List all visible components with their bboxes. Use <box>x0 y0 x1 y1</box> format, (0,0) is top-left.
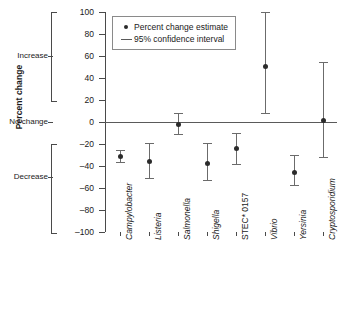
x-tick <box>149 232 150 236</box>
x-axis-label: Cryptosporidium <box>327 178 337 240</box>
percent-change-chart: Percent change IncreaseNo changeDecrease… <box>0 0 347 324</box>
estimate-point <box>321 118 326 123</box>
y-tick-label: 0 <box>60 118 94 126</box>
confidence-interval-cap <box>116 162 125 163</box>
y-tick-label: –20 <box>60 140 94 148</box>
legend: Percent change estimate 95% confidence i… <box>112 16 236 50</box>
confidence-interval-cap <box>203 180 212 181</box>
confidence-interval-cap <box>116 150 125 151</box>
y-zone-label: No change <box>0 117 48 126</box>
estimate-point <box>118 154 123 159</box>
y-tick-label: –60 <box>60 184 94 192</box>
confidence-interval-bar <box>323 62 324 158</box>
x-tick <box>294 232 295 236</box>
y-tick <box>99 232 105 233</box>
legend-dot-icon <box>118 25 134 29</box>
x-tick <box>120 232 121 236</box>
legend-line-icon <box>118 39 134 40</box>
confidence-interval-cap <box>261 12 270 13</box>
y-zone-connector <box>48 122 53 123</box>
y-zone-connector <box>48 177 53 178</box>
confidence-interval-cap <box>232 133 241 134</box>
confidence-interval-cap <box>319 157 328 158</box>
legend-label-ci: 95% confidence interval <box>134 34 224 44</box>
x-axis-label: Campylobacter <box>124 183 134 240</box>
estimate-point <box>147 159 152 164</box>
y-tick-label: 40 <box>60 74 94 82</box>
y-tick-label: 100 <box>60 8 94 16</box>
estimate-point <box>234 146 239 151</box>
y-zone-bracket <box>51 12 57 102</box>
y-tick-label: 60 <box>60 52 94 60</box>
confidence-interval-cap <box>319 62 328 63</box>
y-tick-label: –40 <box>60 162 94 170</box>
y-zone-label: Decrease <box>0 172 48 181</box>
x-axis-label: Listeria <box>153 213 163 240</box>
estimate-point <box>263 64 268 69</box>
x-tick <box>178 232 179 236</box>
x-tick <box>236 232 237 236</box>
y-zone-label: Increase <box>0 51 48 60</box>
estimate-point <box>176 122 181 127</box>
x-tick <box>323 232 324 236</box>
y-tick-label: 80 <box>60 30 94 38</box>
x-axis-label: Vibrio <box>269 218 279 240</box>
y-zone-bracket <box>51 144 57 234</box>
y-tick-label: 20 <box>60 96 94 104</box>
x-tick <box>265 232 266 236</box>
legend-label-estimate: Percent change estimate <box>134 22 228 32</box>
confidence-interval-cap <box>232 164 241 165</box>
y-zone-connector <box>48 56 53 57</box>
estimate-point <box>205 161 210 166</box>
confidence-interval-cap <box>145 143 154 144</box>
confidence-interval-bar <box>265 12 266 113</box>
confidence-interval-cap <box>261 113 270 114</box>
zero-reference-line <box>105 122 337 123</box>
x-axis-label: Salmonella <box>182 198 192 240</box>
x-axis-label: Yersinia <box>298 210 308 240</box>
confidence-interval-cap <box>174 113 183 114</box>
y-tick-label: –80 <box>60 206 94 214</box>
x-tick <box>207 232 208 236</box>
confidence-interval-cap <box>145 178 154 179</box>
confidence-interval-cap <box>174 134 183 135</box>
x-axis-label: STEC* 0157 <box>240 193 250 240</box>
x-axis-label: Shigella <box>211 210 221 240</box>
estimate-point <box>292 170 297 175</box>
confidence-interval-cap <box>290 185 299 186</box>
confidence-interval-cap <box>290 155 299 156</box>
confidence-interval-cap <box>203 143 212 144</box>
legend-item-ci: 95% confidence interval <box>118 33 228 45</box>
y-tick-label: –100 <box>60 228 94 236</box>
legend-item-estimate: Percent change estimate <box>118 21 228 33</box>
